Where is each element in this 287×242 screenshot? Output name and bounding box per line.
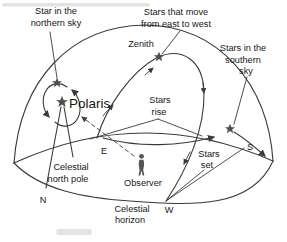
- figure-canvas: Star in the northern sky Stars that move…: [0, 0, 287, 242]
- label-observer: Observer: [124, 178, 162, 188]
- label-polaris: Polaris: [69, 96, 111, 111]
- northern-star-label-pointer: [50, 32, 57, 78]
- label-stars-rise-line1: Stars: [149, 95, 171, 105]
- label-east-west-line2: from east to west: [141, 19, 211, 29]
- label-northern-star-line1: Star in the: [35, 6, 77, 16]
- observer-person-icon: [139, 154, 145, 176]
- polaris-star-icon: [56, 96, 68, 107]
- label-east-west-line1: Stars that move: [144, 7, 208, 17]
- label-celestial-north-pole-line1: Celestial: [53, 162, 88, 172]
- label-cardinal-north: N: [40, 195, 47, 205]
- label-celestial-horizon-line2: horizon: [115, 215, 145, 225]
- label-stars-set-line2: set: [201, 160, 214, 170]
- observer-body: [139, 160, 145, 176]
- label-stars-rise-line2: rise: [152, 107, 167, 117]
- celestial-north-pole-pointer: [64, 107, 73, 157]
- label-celestial-horizon-line1: Celestial: [114, 204, 149, 214]
- label-northern-star-line2: northern sky: [31, 18, 82, 28]
- label-cardinal-south: S: [247, 142, 253, 152]
- label-stars-set-line1: Stars: [198, 149, 220, 159]
- label-southern-sky-line2: southern: [225, 55, 261, 65]
- southern-sky-label-pointer: [234, 77, 247, 124]
- motion-arrow-near-zenith: [145, 68, 153, 75]
- northern-sky-star-icon: [52, 78, 62, 88]
- label-southern-sky-line3: sky: [239, 66, 253, 76]
- east-west-label-pointer: [162, 31, 180, 54]
- label-cardinal-east: E: [101, 146, 107, 156]
- label-southern-sky-line1: Stars in the: [220, 43, 266, 53]
- sight-line-to-polaris: [82, 117, 134, 156]
- scan-artifact-bottom: [56, 229, 92, 235]
- celestial-sphere-diagram: Star in the northern sky Stars that move…: [0, 0, 287, 242]
- label-cardinal-west: W: [165, 205, 174, 215]
- star-path-setting-west: [158, 54, 204, 201]
- stars: [52, 52, 235, 134]
- observer-head: [139, 154, 144, 159]
- stars-set-pointer: [166, 170, 204, 201]
- label-zenith: Zenith: [128, 39, 154, 49]
- label-celestial-north-pole-line2: north pole: [48, 174, 89, 184]
